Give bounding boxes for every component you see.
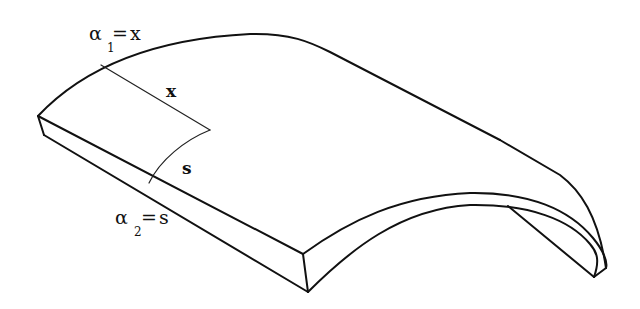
shell-front-top-edge bbox=[38, 116, 303, 254]
alpha1-symbol: α bbox=[89, 22, 102, 44]
s-coordinate-curve bbox=[149, 130, 210, 183]
shell-back-edge bbox=[500, 140, 606, 268]
alpha2-equals: = bbox=[141, 206, 157, 228]
alpha2-symbol: α bbox=[115, 206, 128, 228]
alpha1-value: x bbox=[130, 22, 141, 44]
shell-right-inner-arc bbox=[308, 205, 597, 292]
alpha2-value: s bbox=[159, 206, 169, 228]
shell-panel-diagram: α 1 = x α 2 = s x s bbox=[0, 0, 640, 309]
alpha2-label: α 2 = s bbox=[115, 206, 169, 239]
shell-front-bottom-edge bbox=[44, 135, 308, 292]
alpha1-label: α 1 = x bbox=[89, 22, 141, 55]
s-coordinate-label: s bbox=[182, 158, 192, 178]
shell-front-corner bbox=[303, 254, 308, 292]
alpha1-equals: = bbox=[112, 22, 128, 44]
x-coordinate-line bbox=[101, 65, 210, 130]
shell-right-outer-arc bbox=[303, 193, 606, 268]
x-coordinate-label: x bbox=[166, 81, 177, 101]
